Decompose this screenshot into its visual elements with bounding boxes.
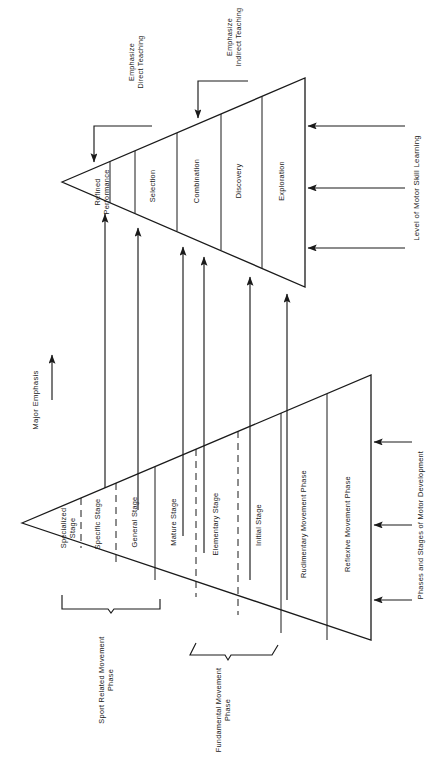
brace-fundamental-line2: Phase bbox=[223, 699, 232, 721]
motor-skill-learning-axis: Level of Motor Skill Learning bbox=[308, 126, 421, 248]
band-label-exploration: Exploration bbox=[277, 161, 286, 201]
major-emphasis-label: Major Emphasis bbox=[31, 370, 40, 429]
band-label-specialized-stage-line1: Specialized bbox=[59, 508, 68, 549]
major-emphasis-axis: Major Emphasis bbox=[31, 355, 52, 430]
band-label-refined-performance-line1: Refined bbox=[93, 178, 102, 205]
callout-indirect-teaching: Emphasize Indirect Teaching bbox=[198, 8, 248, 118]
upper-band-labels: Refined Performance Selection Combinatio… bbox=[93, 159, 286, 215]
motor-development-axis: Phases and Stages of Motor Development bbox=[374, 442, 425, 600]
band-label-mature-stage: Mature Stage bbox=[169, 498, 178, 545]
band-label-refined-performance-line2: Performance bbox=[102, 169, 111, 214]
band-label-discovery: Discovery bbox=[234, 164, 243, 199]
band-label-selection: Selection bbox=[148, 170, 157, 203]
motor-development-axis-label: Phases and Stages of Motor Development bbox=[416, 451, 425, 599]
band-label-specialized-stage-line2: Stage bbox=[68, 518, 77, 539]
callout-direct-teaching-line1: Emphasize bbox=[127, 43, 136, 81]
motor-development-diagram: Major Emphasis Refined Performance Selec… bbox=[0, 0, 435, 762]
band-label-combination: Combination bbox=[192, 159, 201, 203]
band-label-specific-stage: Specific Stage bbox=[93, 499, 102, 550]
lower-triangle-group: Specialized Stage Specific Stage General… bbox=[22, 375, 425, 752]
brace-sport-related-path bbox=[62, 595, 160, 613]
callout-indirect-teaching-line1: Emphasize bbox=[225, 18, 234, 56]
band-label-rudimentary-movement-phase: Rudimentary Movement Phase bbox=[299, 470, 308, 578]
brace-fundamental-movement: Fundamental Movement Phase bbox=[190, 643, 278, 752]
band-label-initial-stage: Initial Stage bbox=[254, 504, 263, 546]
motor-skill-learning-axis-label: Level of Motor Skill Learning bbox=[412, 135, 421, 241]
callout-direct-teaching: Emphasize Direct Teaching bbox=[94, 35, 152, 162]
brace-fundamental-line1: Fundamental Movement bbox=[214, 668, 223, 753]
brace-sport-related-line2: Phase bbox=[106, 669, 115, 691]
figure-canvas: Major Emphasis Refined Performance Selec… bbox=[0, 0, 435, 762]
callout-indirect-teaching-line2: Indirect Teaching bbox=[234, 8, 243, 66]
callout-direct-teaching-line2: Direct Teaching bbox=[136, 35, 145, 88]
brace-sport-related-movement: Sport Related Movement Phase bbox=[62, 595, 160, 724]
band-label-reflexive-movement-phase: Reflexive Movement Phase bbox=[343, 476, 352, 572]
upper-triangle-group: Refined Performance Selection Combinatio… bbox=[62, 8, 421, 287]
brace-sport-related-line1: Sport Related Movement bbox=[97, 636, 106, 723]
lower-band-labels: Specialized Stage Specific Stage General… bbox=[59, 470, 352, 578]
band-label-general-stage: General Stage bbox=[130, 497, 139, 548]
lower-triangle-outline bbox=[22, 375, 371, 640]
brace-fundamental-path bbox=[190, 643, 278, 660]
band-label-elementary-stage: Elementary Stage bbox=[211, 493, 220, 556]
